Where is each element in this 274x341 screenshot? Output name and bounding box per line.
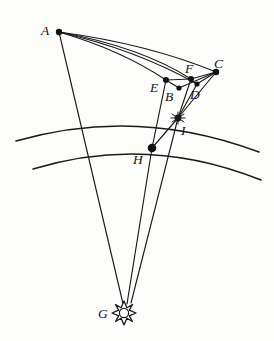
point-B-marker [176,85,181,90]
label-H: H [132,152,144,167]
point-H-marker [148,144,157,153]
label-B: B [165,89,173,104]
point-A-marker [56,29,62,35]
segment-H-G [127,148,152,304]
point-F-marker [188,76,194,82]
curve-group-from-A [59,32,216,84]
point-E-marker [163,77,169,83]
geometric-diagram: A B C D E F G H I [0,0,274,341]
segment-C-D [197,72,216,84]
diagram-canvas: A B C D E F G H I [0,0,274,341]
outer-arc [16,126,259,152]
segment-E-F [166,79,191,80]
label-F: F [184,61,194,76]
label-I: I [180,123,187,138]
label-A: A [40,23,50,38]
label-G: G [98,306,108,321]
label-E: E [149,80,159,95]
label-C: C [214,56,224,71]
label-D: D [189,87,200,102]
point-D-marker [194,81,199,86]
curve-A-E [59,32,166,80]
sun-symbol-G [112,301,136,325]
sun-core-icon [119,308,128,317]
segment-A-G [59,32,124,308]
